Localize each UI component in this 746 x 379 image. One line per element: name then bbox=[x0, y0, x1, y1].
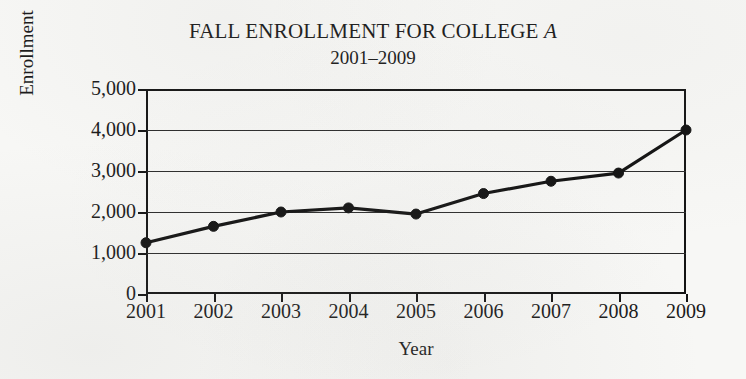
data-point-2001 bbox=[141, 238, 151, 248]
x-axis-tick-label: 2004 bbox=[316, 300, 382, 322]
y-axis-tick-label: 1,000 bbox=[44, 242, 136, 262]
x-axis-tick-label: 2009 bbox=[653, 300, 719, 322]
x-axis-tick-mark bbox=[146, 294, 148, 302]
x-axis-tick-label: 2007 bbox=[518, 300, 584, 322]
data-point-2008 bbox=[614, 168, 624, 178]
x-axis-tick-mark bbox=[551, 294, 553, 302]
data-point-2004 bbox=[344, 203, 354, 213]
y-axis-tick-label: 2,000 bbox=[44, 201, 136, 221]
x-axis-tick-mark bbox=[619, 294, 621, 302]
chart-title: FALL ENROLLMENT FOR COLLEGE A bbox=[0, 18, 746, 44]
data-point-2003 bbox=[276, 207, 286, 217]
x-axis-tick-mark bbox=[484, 294, 486, 302]
chart-subtitle: 2001–2009 bbox=[0, 46, 746, 70]
y-axis-title: Enrollment bbox=[14, 0, 40, 138]
x-axis-tick-label: 2002 bbox=[181, 300, 247, 322]
x-axis-tick-mark bbox=[686, 294, 688, 302]
x-axis-tick-mark bbox=[281, 294, 283, 302]
x-axis-tick-label: 2003 bbox=[248, 300, 314, 322]
enrollment-series bbox=[146, 89, 686, 294]
chart-title-block: FALL ENROLLMENT FOR COLLEGE A 2001–2009 bbox=[0, 18, 746, 70]
x-axis-tick-label: 2001 bbox=[113, 300, 179, 322]
y-axis-tick-label: 4,000 bbox=[44, 119, 136, 139]
x-axis-tick-mark bbox=[214, 294, 216, 302]
x-axis-title: Year bbox=[146, 337, 686, 361]
data-point-2005 bbox=[411, 209, 421, 219]
chart-title-college-letter: A bbox=[544, 19, 557, 43]
chart-title-main: FALL ENROLLMENT FOR COLLEGE bbox=[189, 19, 544, 43]
x-axis-tick-label: 2006 bbox=[451, 300, 517, 322]
series-line bbox=[146, 130, 686, 243]
y-axis-tick-label: 3,000 bbox=[44, 160, 136, 180]
x-axis-tick-mark bbox=[349, 294, 351, 302]
data-point-2009 bbox=[681, 125, 691, 135]
x-axis-tick-mark bbox=[416, 294, 418, 302]
x-axis-tick-label: 2008 bbox=[586, 300, 652, 322]
data-point-2002 bbox=[209, 221, 219, 231]
y-axis-tick-label: 5,000 bbox=[44, 78, 136, 98]
data-point-2006 bbox=[479, 189, 489, 199]
chart-figure: FALL ENROLLMENT FOR COLLEGE A 2001–2009 … bbox=[0, 0, 746, 379]
x-axis-tick-label: 2005 bbox=[383, 300, 449, 322]
data-point-2007 bbox=[546, 176, 556, 186]
